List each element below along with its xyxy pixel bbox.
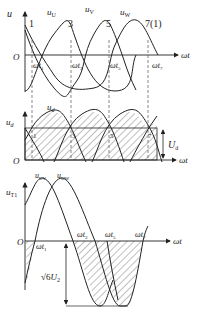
peak-label: √6U2 [41,272,60,283]
rectifier-waveform-diagram: u O ωt uU uV uW 1 3 5 7(1) ωt1 ωt3 ωt5 ω… [0,0,197,314]
point-1: 1 [29,18,34,29]
bot-mark-wt1: ωt1 [36,242,47,252]
curve-label-uUV: uUV [35,171,47,181]
mid-point-1: 1 [33,132,37,140]
top-y-label: u [7,8,12,19]
bot-y-label: uT1 [6,187,17,198]
bot-origin-label: O [17,237,24,247]
mark-wt7: ωt7 [152,61,163,71]
ud-area [25,112,157,160]
bottom-plot: uT1 O ωt uUV uUW ωt1 ωt3 ωt5 ωt7 √6U2 [6,171,182,306]
mid-point-7: 7 [148,132,152,140]
mark-wt1: ωt1 [33,61,44,71]
mid-point-5: 5 [110,132,114,140]
mark-wt5: ωt5 [110,61,121,71]
mid-x-label: ωt [179,155,188,165]
top-origin-label: O [13,52,20,62]
mid-point-3: 3 [72,132,76,140]
point-3: 3 [68,18,73,29]
curve-label-uU: uU [47,7,57,18]
mid-y-label: ud [6,117,15,128]
point-7: 7(1) [145,18,162,30]
point-5: 5 [106,18,111,29]
mark-wt3: ωt3 [72,61,83,71]
top-x-label: ωt [181,50,190,60]
middle-plot: ud O ωt ud Ud 1 3 5 7 [6,102,188,166]
curve-label-uW: uW [120,7,131,18]
curve-label-uV: uV [85,4,95,15]
top-plot: u O ωt uU uV uW 1 3 5 7(1) ωt1 ωt3 ωt5 ω… [7,4,190,97]
mid-origin-label: O [13,156,20,166]
ud-curve-label: ud [47,102,56,113]
bot-mark-wt5: ωt5 [105,230,116,240]
bot-mark-wt7: ωt7 [135,230,146,240]
curve-label-uUW: uUW [57,171,70,181]
ud-avg-label: Ud [168,139,178,151]
bot-mark-wt3: ωt3 [77,230,88,240]
bot-x-label: ωt [173,236,182,246]
